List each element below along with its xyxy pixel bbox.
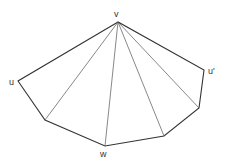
vertex-label-u-prime: u' xyxy=(208,66,215,76)
fan-diagonals xyxy=(45,22,199,146)
diagonal-v-c xyxy=(118,22,199,108)
diagonal-v-b xyxy=(118,22,164,136)
vertex-label-w: w xyxy=(99,149,107,159)
polygon-fan-diagram: v u u' w xyxy=(0,0,227,162)
diagonal-v-w xyxy=(105,22,118,146)
vertex-label-u: u xyxy=(9,77,14,87)
vertex-label-v: v xyxy=(114,9,119,19)
diagonal-v-a xyxy=(45,22,118,120)
